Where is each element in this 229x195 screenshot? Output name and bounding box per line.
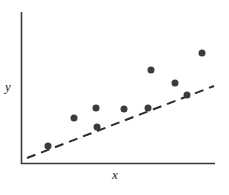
data-point	[121, 106, 128, 113]
data-point	[94, 124, 101, 131]
x-axis-label: x	[112, 168, 118, 181]
data-point	[145, 105, 152, 112]
data-point	[45, 143, 52, 150]
data-point	[71, 115, 78, 122]
scatter-plot-figure: y x	[0, 0, 229, 195]
y-axis-label: y	[5, 80, 11, 93]
data-point	[148, 67, 155, 74]
data-point	[199, 50, 206, 57]
data-point	[93, 105, 100, 112]
plot-canvas	[0, 0, 229, 195]
data-point	[184, 92, 191, 99]
data-point	[172, 80, 179, 87]
